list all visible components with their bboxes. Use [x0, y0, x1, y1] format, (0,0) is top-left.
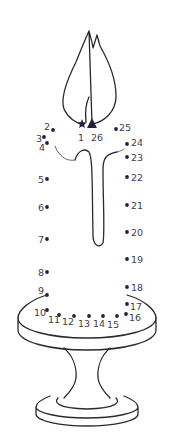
dot-point [125, 203, 129, 207]
dot-12: 12 [62, 314, 76, 327]
candle-edge-left [55, 146, 75, 160]
dot-label: 12 [62, 316, 74, 327]
dot-label: 10 [34, 307, 46, 318]
dot-24: 24 [125, 137, 143, 148]
dot-label: 5 [38, 174, 44, 185]
dot-2: 2 [44, 121, 55, 132]
dot-label: 22 [131, 172, 143, 183]
dot-point [115, 314, 119, 318]
dot-17: 17 [125, 301, 142, 312]
candle-edge-right [117, 149, 124, 152]
dot-16: 16 [124, 312, 141, 323]
dot-label: 19 [131, 254, 143, 265]
candle-drip [75, 150, 117, 246]
end-marker-label: 26 [91, 132, 103, 143]
dot-label: 7 [38, 234, 44, 245]
dot-label: 11 [48, 314, 60, 325]
flame-inner-wick [86, 97, 89, 122]
dot-14: 14 [93, 314, 105, 329]
holder-base [36, 396, 138, 426]
dot-label: 13 [78, 318, 90, 329]
dot-label: 4 [39, 142, 45, 153]
holder-stem [64, 348, 110, 398]
dot-label: 16 [129, 312, 141, 323]
dot-18: 18 [125, 282, 143, 293]
dot-point [45, 205, 49, 209]
dot-label: 9 [38, 285, 44, 296]
dot-point [125, 175, 129, 179]
puzzle-canvas: 126 234567891011121314151617181920212223… [0, 0, 172, 446]
dot-25: 25 [114, 122, 131, 133]
dot-label: 6 [38, 202, 44, 213]
dot-10: 10 [34, 307, 49, 318]
dot-label: 21 [131, 200, 143, 211]
dot-19: 19 [125, 254, 143, 265]
dot-label: 23 [131, 152, 143, 163]
dot-4: 4 [39, 141, 49, 153]
dot-20: 20 [125, 227, 143, 238]
dot-point [125, 257, 129, 261]
dot-point [45, 141, 49, 145]
dot-9: 9 [38, 285, 49, 297]
dot-point [51, 128, 55, 132]
dot-8: 8 [38, 267, 49, 278]
start-marker-label: 1 [78, 132, 84, 143]
dot-11: 11 [48, 313, 61, 325]
dot-point [42, 135, 46, 139]
dot-23: 23 [125, 152, 143, 163]
dot-point [45, 270, 49, 274]
dot-label: 15 [107, 319, 119, 330]
dot-label: 20 [131, 227, 143, 238]
dot-point [45, 293, 49, 297]
dot-label: 18 [131, 282, 143, 293]
dot-point [45, 177, 49, 181]
dot-label: 17 [130, 301, 142, 312]
dot-point [125, 230, 129, 234]
dot-point [124, 312, 128, 316]
dot-22: 22 [125, 172, 143, 183]
dot-label: 25 [119, 122, 131, 133]
dot-point [125, 285, 129, 289]
dot-label: 24 [131, 137, 143, 148]
dot-21: 21 [125, 200, 143, 211]
dot-point [114, 127, 118, 131]
dot-point [125, 302, 129, 306]
flame-outline [63, 31, 116, 124]
dot-label: 2 [44, 121, 50, 132]
dot-point [45, 237, 49, 241]
dot-15: 15 [107, 314, 119, 330]
dot-point [125, 155, 129, 159]
dot-label: 14 [93, 318, 105, 329]
dot-5: 5 [38, 174, 49, 185]
dot-13: 13 [78, 314, 91, 329]
dot-point [125, 142, 129, 146]
dot-6: 6 [38, 202, 49, 213]
dot-label: 8 [38, 267, 44, 278]
dot-7: 7 [38, 234, 49, 245]
